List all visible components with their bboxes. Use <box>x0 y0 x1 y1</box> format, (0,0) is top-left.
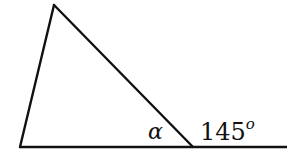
triangle-right-side <box>54 5 193 147</box>
exterior-angle-value: 145 <box>200 118 246 146</box>
triangle-left-side <box>20 5 54 147</box>
triangle-diagram: α 145o <box>0 0 305 155</box>
interior-angle-label: α <box>148 119 163 144</box>
exterior-angle-label: 145o <box>200 115 255 146</box>
degree-symbol: o <box>246 115 255 133</box>
